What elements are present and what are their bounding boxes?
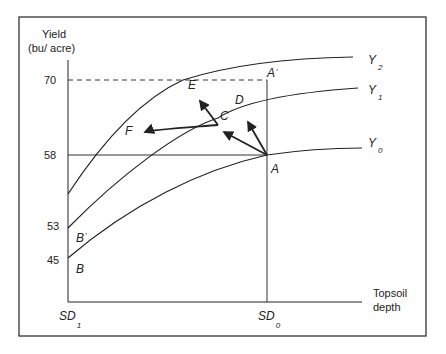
curve-label-y2: Y2 <box>368 53 383 72</box>
y-tick-45: 45 <box>47 254 59 266</box>
point-label-b: B <box>76 262 84 276</box>
arrow-c-to-f <box>145 125 218 132</box>
point-label-c: C <box>220 109 229 123</box>
point-label-e: E <box>188 78 197 92</box>
yield-topsoil-diagram: Yield (bu/ acre) Topsoil depth 70 58 53 … <box>0 0 446 354</box>
point-label-b-prime: B′ <box>76 231 87 245</box>
y-axis-title-line1: Yield <box>42 28 66 40</box>
y-tick-70: 70 <box>44 74 56 86</box>
curve-label-y1: Y1 <box>368 83 382 102</box>
x-axis-title-line2: depth <box>373 301 401 313</box>
curve-y0 <box>68 148 362 258</box>
curve-y1 <box>68 88 358 228</box>
x-tick-sd1: SD1 <box>59 309 81 330</box>
point-label-a: A <box>270 162 279 176</box>
x-axis-title-line1: Topsoil <box>373 287 407 299</box>
point-label-d: D <box>235 93 244 107</box>
x-tick-sd0: SD0 <box>258 309 281 330</box>
point-label-a-prime: A′ <box>266 66 278 80</box>
y-tick-53: 53 <box>47 220 59 232</box>
y-tick-58: 58 <box>44 149 56 161</box>
point-label-f: F <box>125 124 133 138</box>
curve-label-y0: Y0 <box>368 136 383 155</box>
y-axis-title-line2: (bu/ acre) <box>28 42 75 54</box>
